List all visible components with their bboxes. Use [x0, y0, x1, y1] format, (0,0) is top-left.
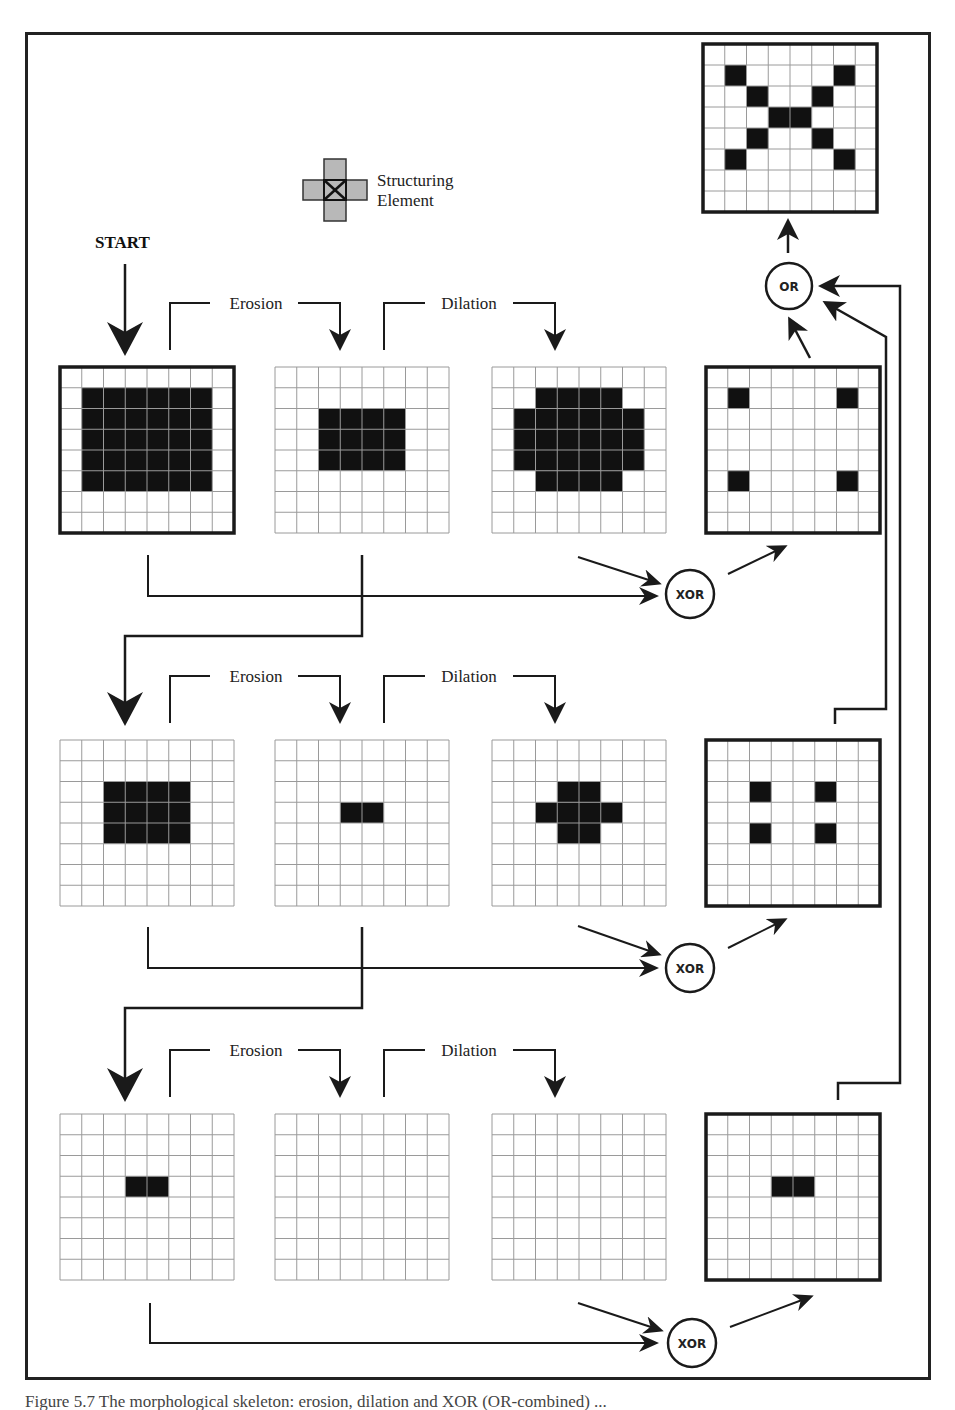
grid-dilated-level-3 [492, 1114, 666, 1280]
figure-caption: Figure 5.7 The morphological skeleton: e… [25, 1392, 945, 1410]
xor-operator-row1: XOR [666, 570, 714, 618]
dilation-label: Dilation [441, 294, 497, 313]
or-operator: OR [766, 263, 812, 309]
xor-operator-row2: XOR [666, 944, 714, 992]
start-label: START [95, 233, 150, 252]
svg-text:XOR: XOR [676, 962, 704, 976]
grid-eroded-level-3 [275, 1114, 449, 1280]
dilation-label: Dilation [441, 1041, 497, 1060]
dilation-label: Dilation [441, 667, 497, 686]
xor-operator-row3: XOR [668, 1319, 716, 1367]
step-labels-level-1 [170, 303, 555, 350]
svg-text:OR: OR [779, 280, 798, 294]
or-feedback-lines [788, 222, 900, 1100]
grid-dilated-level-2 [492, 740, 666, 906]
grid-xor-level-2 [706, 740, 880, 906]
morphology-diagram: Structuring Element START ErosionDilatio… [0, 0, 955, 1410]
svg-text:XOR: XOR [678, 1337, 706, 1351]
grid-dilated-level-1 [492, 367, 666, 533]
grid-input-level-1 [60, 367, 234, 533]
erosion-label: Erosion [230, 294, 283, 313]
structuring-element-label-2: Element [377, 191, 434, 210]
grid-final-result [703, 44, 877, 212]
svg-text:XOR: XOR [676, 588, 704, 602]
grid-xor-level-3 [706, 1114, 880, 1280]
grid-xor-level-1 [706, 367, 880, 533]
erosion-label: Erosion [230, 1041, 283, 1060]
step-labels-level-3 [170, 1050, 555, 1097]
erosion-label: Erosion [230, 667, 283, 686]
structuring-element-label-1: Structuring [377, 171, 454, 190]
grid-input-level-3 [60, 1114, 234, 1280]
structuring-element-icon [303, 159, 367, 221]
grid-input-level-2 [60, 740, 234, 906]
grid-eroded-level-1 [275, 367, 449, 533]
grid-eroded-level-2 [275, 740, 449, 906]
step-labels-level-2 [170, 676, 555, 723]
